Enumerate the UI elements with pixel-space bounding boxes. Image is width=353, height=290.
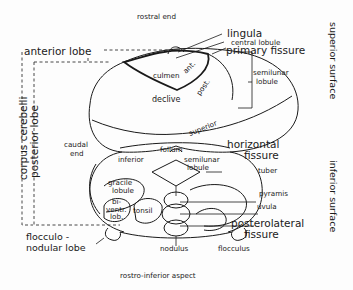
label-flocculonodular-1: flocculo - (26, 231, 69, 242)
label-flocculonodular-2: nodular lobe (26, 242, 86, 253)
diagram-canvas: rostral end rostro-inferior aspect anter… (0, 0, 353, 290)
label-anterior-lobe: anterior lobe (24, 45, 91, 57)
label-flocculus: flocculus (218, 244, 250, 253)
label-ant: ant. (181, 59, 197, 75)
label-uvula: uvula (257, 202, 277, 211)
label-posterior-lobe: posterior lobe (28, 105, 40, 178)
label-primary-fissure: primary fissure (226, 44, 305, 56)
label-declive: declive (152, 95, 181, 104)
label-tonsil: tonsil (133, 206, 153, 215)
label-gracile-lobule: lobule (112, 186, 135, 195)
label-tuber: tuber (258, 166, 277, 175)
label-biventral-3: lob. (110, 212, 123, 221)
label-post: post. (194, 77, 212, 97)
cerebellum-diagram: rostral end rostro-inferior aspect anter… (0, 0, 353, 290)
label-caudal: caudal (64, 140, 88, 149)
label-semilunar-inferior-2: lobule (187, 163, 210, 172)
label-nodulus: nodulus (160, 244, 189, 253)
labels: rostral end rostro-inferior aspect anter… (17, 12, 339, 280)
label-rostral-end: rostral end (137, 12, 176, 21)
label-horizontal-fissure: fissure (244, 149, 279, 161)
label-end: end (70, 149, 84, 158)
label-inferior: inferior (118, 155, 144, 164)
label-posterolateral-fissure: fissure (244, 228, 279, 240)
label-folium: folium (160, 145, 182, 154)
label-pyramis: pyramis (259, 189, 288, 198)
label-rostro-inferior-aspect: rostro-inferior aspect (120, 271, 196, 280)
label-semilunar-superior-1: semilunar (253, 68, 289, 77)
label-culmen: culmen (153, 71, 179, 80)
label-inferior-surface: inferior surface (328, 160, 339, 232)
label-semilunar-superior-2: lobule (256, 77, 279, 86)
label-superior: superior (187, 118, 218, 137)
label-superior-surface: superior surface (328, 22, 339, 99)
